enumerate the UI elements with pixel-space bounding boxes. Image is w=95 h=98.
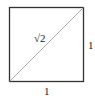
square-diagram — [0, 0, 95, 98]
diagonal-label: √2 — [34, 33, 46, 44]
diagonal — [10, 8, 84, 82]
side-bottom-label: 1 — [44, 86, 50, 97]
side-right-label: 1 — [88, 40, 94, 51]
